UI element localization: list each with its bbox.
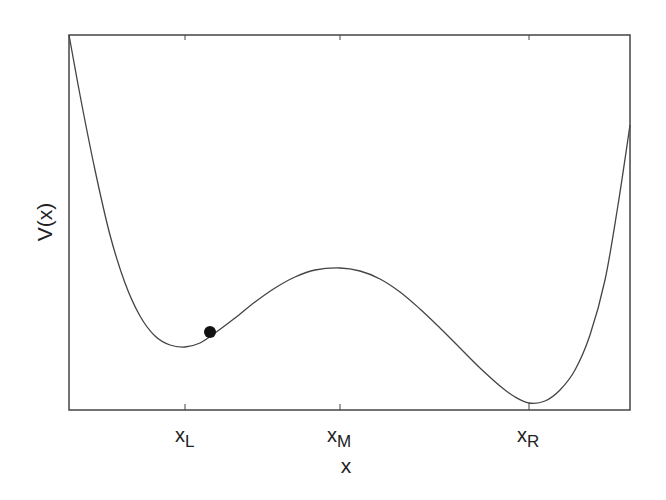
ball-marker xyxy=(204,326,216,338)
x-axis-label: x xyxy=(341,454,352,477)
potential-chart: xL xM xR x V(x) xyxy=(0,0,666,500)
x-tick-label-xM: xM xyxy=(327,424,351,451)
x-tick-label-xL: xL xyxy=(175,424,194,451)
potential-curve xyxy=(69,35,630,403)
y-axis-label: V(x) xyxy=(33,203,56,242)
x-tick-label-xR: xR xyxy=(517,424,539,451)
plot-frame xyxy=(69,35,630,410)
